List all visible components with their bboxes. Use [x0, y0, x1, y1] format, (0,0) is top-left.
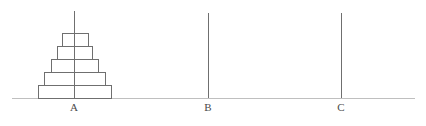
peg-label-a: A — [62, 101, 86, 113]
disk-1 — [63, 34, 89, 47]
tower-of-hanoi-figure: A B C — [0, 0, 426, 126]
peg-label-c: C — [329, 101, 353, 113]
peg-label-b: B — [196, 101, 220, 113]
